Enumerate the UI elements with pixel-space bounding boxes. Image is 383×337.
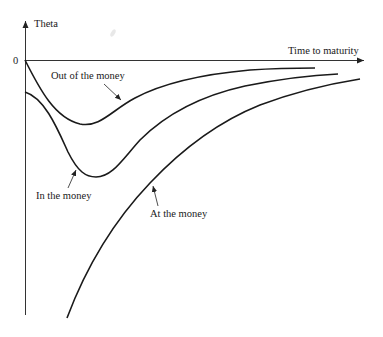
- theta-chart: Theta Time to maturity 0 Out of the mone…: [0, 0, 383, 337]
- pointer-out-of-the-money: [104, 84, 121, 100]
- zero-tick-label: 0: [13, 55, 18, 66]
- x-axis-label: Time to maturity: [288, 45, 360, 56]
- label-in-the-money: In the money: [36, 190, 92, 201]
- label-out-of-the-money: Out of the money: [51, 70, 126, 81]
- curve-in-the-money: [25, 74, 338, 177]
- scan-smudge: [109, 29, 116, 38]
- pointer-in-the-money: [68, 170, 76, 188]
- curve-at-the-money: [67, 79, 360, 318]
- y-axis-label: Theta: [34, 18, 58, 29]
- label-at-the-money: At the money: [150, 208, 208, 219]
- pointer-at-the-money: [153, 186, 158, 206]
